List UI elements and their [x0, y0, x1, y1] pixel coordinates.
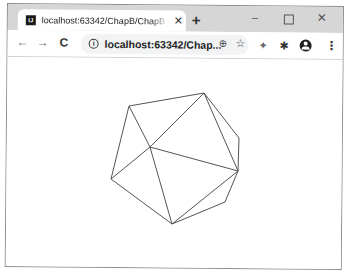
wireframe-edge — [111, 147, 150, 179]
wireframe-edge — [172, 202, 225, 224]
wireframe-edge — [129, 106, 150, 147]
wireframe-edge — [111, 179, 172, 224]
wireframe-edge — [172, 171, 238, 224]
wireframe-edge — [238, 138, 239, 171]
wireframe-edge — [204, 93, 239, 138]
wireframe-edge — [204, 93, 238, 171]
wireframe-edge — [150, 147, 172, 224]
wireframe-edge — [150, 147, 238, 171]
wireframe-edge — [111, 106, 129, 179]
polyhedron-wireframe — [0, 0, 349, 276]
